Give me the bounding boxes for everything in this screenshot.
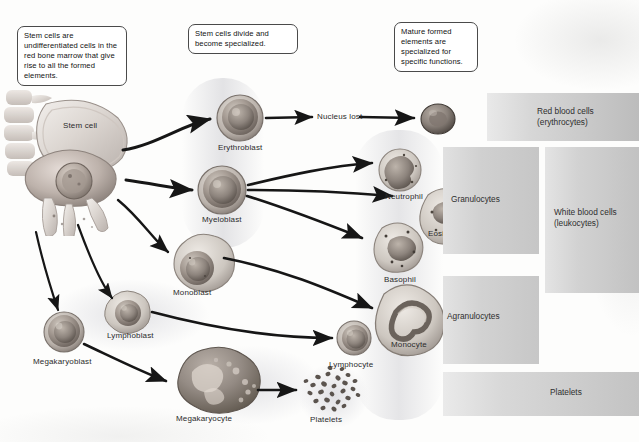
label-myeloblast: Myeloblast: [202, 215, 242, 224]
label-neutrophil: Neutrophil: [385, 192, 423, 201]
label-megakaryocyte: Megakaryocyte: [176, 414, 232, 423]
label-stem-cell: Stem cell: [63, 121, 97, 130]
category-bar-white-blood-cells: White blood cells (leukocytes): [545, 147, 639, 293]
category-bar-granulocytes: Granulocytes: [443, 147, 539, 254]
label-megakaryoblast: Megakaryoblast: [33, 357, 92, 366]
label-basophil: Basophil: [384, 275, 416, 284]
label-erythroblast: Erythroblast: [218, 143, 262, 152]
label-monoblast: Monoblast: [173, 288, 211, 297]
label-nucleus-lost: Nucleus lost: [317, 112, 362, 121]
callout-stem-cells: Stem cells are undifferentiated cells in…: [17, 26, 127, 86]
category-bar-agranulocytes: Agranulocytes: [443, 276, 539, 364]
hematopoiesis-diagram: Stem cells are undifferentiated cells in…: [0, 0, 639, 442]
label-lymphoblast: Lymphoblast: [107, 331, 154, 340]
category-label-white-blood-cells: White blood cells (leukocytes): [554, 207, 639, 229]
label-monocyte: Monocyte: [391, 340, 427, 349]
category-label-agranulocytes: Agranulocytes: [447, 311, 500, 322]
category-label-granulocytes: Granulocytes: [451, 194, 500, 205]
category-label-platelets: Platelets: [550, 387, 582, 398]
label-platelets: Platelets: [310, 415, 342, 424]
category-bar-red-blood-cells: Red blood cells (erythrocytes): [487, 93, 639, 141]
category-label-red-blood-cells: Red blood cells (erythrocytes): [537, 106, 639, 128]
label-lymphocyte: Lymphocyte: [329, 360, 373, 369]
callout-divide: Stem cells divide and become specialized…: [188, 24, 298, 54]
category-bar-platelets: Platelets: [443, 372, 639, 416]
callout-mature: Mature formed elements are specialized f…: [394, 22, 478, 72]
